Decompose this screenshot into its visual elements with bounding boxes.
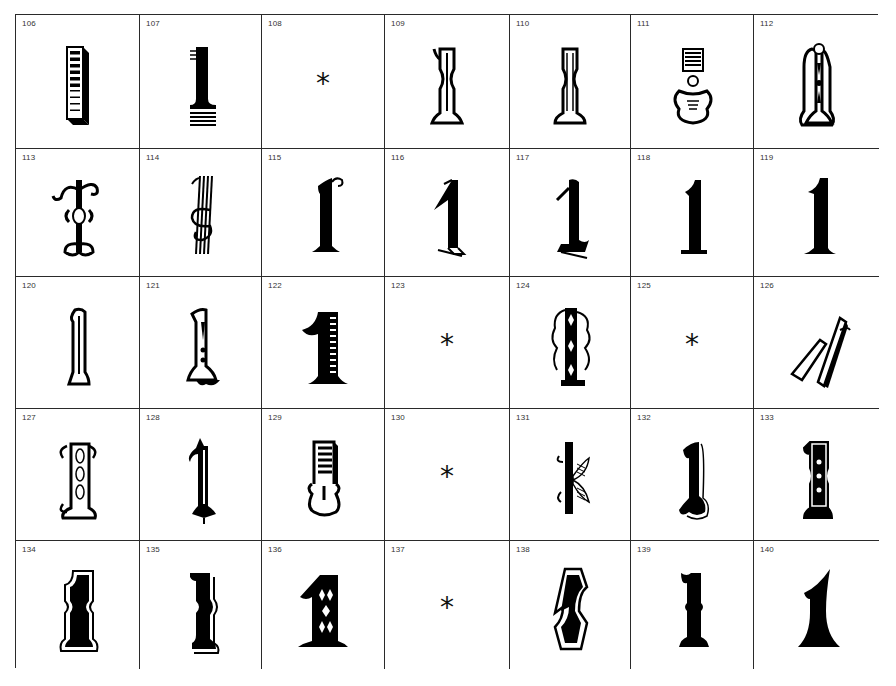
specimen-cell: 111 [631, 15, 754, 149]
specimen-number: 114 [146, 153, 159, 162]
numeral-one-icon [166, 170, 236, 260]
numeral-one-icon [657, 170, 727, 260]
specimen-number: 122 [268, 281, 282, 290]
asterisk-glyph: * [685, 331, 699, 359]
specimen-number: 117 [516, 153, 529, 162]
numeral-one-outlined-dots-icon [782, 432, 852, 522]
specimen-cell: 126 [754, 277, 879, 409]
numeral-one-icon [166, 39, 236, 129]
specimen-cell: 107 [140, 15, 262, 149]
specimen-cell: 106 [16, 15, 140, 149]
specimen-cell: 130* [385, 409, 510, 541]
specimen-number: 129 [268, 413, 282, 422]
numeral-one-icon [43, 170, 113, 260]
numeral-one-icon [412, 170, 482, 260]
specimen-number: 126 [760, 281, 774, 290]
numeral-one-icon [782, 432, 852, 522]
numeral-one-icon [43, 432, 113, 522]
numeral-one-icon [535, 300, 605, 390]
specimen-number: 119 [760, 153, 773, 162]
specimen-number: 123 [391, 281, 405, 290]
specimen-number: 107 [146, 19, 160, 28]
numeral-one-icon [535, 39, 605, 129]
specimen-number: 125 [637, 281, 651, 290]
specimen-cell: 134 [16, 541, 140, 669]
numeral-one-icon [657, 39, 727, 129]
specimen-cell: 136 [262, 541, 385, 669]
numeral-one-filigree-icon [535, 300, 605, 390]
numeral-one-icon [166, 300, 236, 390]
specimen-cell: 128 [140, 409, 262, 541]
numeral-one-ornate-scroll-icon [657, 39, 727, 129]
asterisk-glyph: * [316, 70, 330, 98]
specimen-number: 112 [760, 19, 773, 28]
specimen-cell: 125* [631, 277, 754, 409]
numeral-one-curl-outline-icon [43, 170, 113, 260]
numeral-one-ornate-leaf-icon [43, 432, 113, 522]
specimen-number: 121 [146, 281, 160, 290]
specimen-cell: 137* [385, 541, 510, 669]
specimen-cell: 118 [631, 149, 754, 277]
specimen-cell: 140 [754, 541, 879, 669]
numeral-one-icon [43, 563, 113, 653]
numeral-one-icon [288, 170, 358, 260]
specimen-number: 116 [391, 153, 404, 162]
numeral-one-plain-serif-heavy-icon [782, 170, 852, 260]
numeral-one-outlined-tuscan-icon [43, 563, 113, 653]
specimen-number: 130 [391, 413, 405, 422]
specimen-number: 118 [637, 153, 650, 162]
numeral-one-icon [782, 300, 852, 390]
specimen-number: 135 [146, 545, 160, 554]
numeral-one-tuscan-lined-icon [535, 39, 605, 129]
specimen-number: 137 [391, 545, 405, 554]
numeral-one-icon [782, 39, 852, 129]
specimen-cell: 133 [754, 409, 879, 541]
specimen-cell: 121 [140, 277, 262, 409]
specimen-grid: 106107108*109110111112113114115116117118… [15, 14, 878, 668]
specimen-number: 134 [22, 545, 36, 554]
specimen-cell: 131 [510, 409, 631, 541]
numeral-one-flared-bold-icon [782, 563, 852, 653]
asterisk-glyph: * [440, 594, 454, 622]
specimen-cell: 114 [140, 149, 262, 277]
numeral-one-spiked-ornate-icon [166, 432, 236, 522]
numeral-one-outline-tall-icon [43, 300, 113, 390]
specimen-number: 138 [516, 545, 530, 554]
numeral-one-multiline-swash-icon [166, 170, 236, 260]
numeral-one-lined-bold-icon [288, 300, 358, 390]
specimen-cell: 122 [262, 277, 385, 409]
numeral-one-icon [657, 432, 727, 522]
asterisk-glyph: * [440, 463, 454, 491]
specimen-number: 128 [146, 413, 160, 422]
specimen-cell: 110 [510, 15, 631, 149]
numeral-one-icon [166, 432, 236, 522]
numeral-one-bold-cutout-icon [288, 563, 358, 653]
asterisk-icon: * [288, 39, 358, 129]
numeral-one-blackletter-icon [535, 170, 605, 260]
specimen-cell: 127 [16, 409, 140, 541]
numeral-one-icon [166, 563, 236, 653]
asterisk-icon: * [412, 300, 482, 390]
numeral-one-icon [288, 300, 358, 390]
specimen-number: 133 [760, 413, 774, 422]
numeral-one-icon [288, 432, 358, 522]
specimen-cell: 120 [16, 277, 140, 409]
numeral-one-circus-dotted-icon [782, 39, 852, 129]
numeral-one-shadow-tuscan-icon [166, 563, 236, 653]
numeral-one-shadow-serif-icon [412, 170, 482, 260]
numeral-one-double-outline-icon [535, 563, 605, 653]
numeral-one-icon [43, 39, 113, 129]
specimen-cell: 119 [754, 149, 879, 277]
numeral-one-striped-3d-block-icon [43, 39, 113, 129]
numeral-one-shadow-curve-icon [657, 432, 727, 522]
numeral-one-tuscan-bold-icon [657, 563, 727, 653]
numeral-one-circus-shadow-icon [166, 300, 236, 390]
specimen-cell: 132 [631, 409, 754, 541]
specimen-number: 109 [391, 19, 405, 28]
numeral-one-striped-scroll-icon [288, 432, 358, 522]
specimen-number: 111 [637, 19, 650, 28]
specimen-cell: 139 [631, 541, 754, 669]
numeral-one-italic-3d-icon [782, 300, 852, 390]
specimen-number: 120 [22, 281, 36, 290]
numeral-one-icon [535, 170, 605, 260]
